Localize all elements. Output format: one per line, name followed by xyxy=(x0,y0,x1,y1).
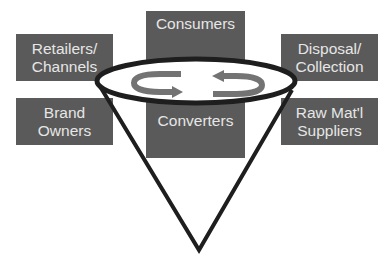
funnel-graphic xyxy=(0,0,392,264)
cone-outline xyxy=(101,88,292,250)
